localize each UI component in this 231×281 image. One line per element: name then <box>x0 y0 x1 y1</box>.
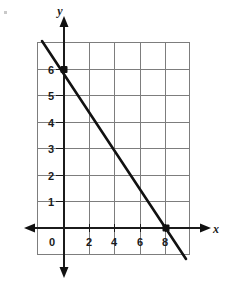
coordinate-plane: y x 6 5 4 3 2 1 0 2 4 6 8 <box>0 0 231 281</box>
y-axis-label: y <box>55 4 63 18</box>
point-y-intercept <box>61 66 68 73</box>
x-tick-label-4: 4 <box>111 236 118 248</box>
y-tick-label-6: 6 <box>48 64 54 76</box>
x-axis-arrow-left-icon <box>24 224 35 233</box>
y-axis-ticks <box>56 70 64 202</box>
y-tick-label-2: 2 <box>48 170 54 182</box>
x-tick-label-8: 8 <box>162 236 168 248</box>
x-tick-label-6: 6 <box>137 236 143 248</box>
y-tick-label-1: 1 <box>48 196 54 208</box>
origin-label: 0 <box>49 236 55 248</box>
scan-speck <box>4 11 7 14</box>
x-axis-label: x <box>212 222 219 236</box>
y-axis-arrow-down-icon <box>60 267 69 278</box>
y-tick-label-4: 4 <box>48 117 55 129</box>
y-tick-label-5: 5 <box>48 90 54 102</box>
graph-figure: y x 6 5 4 3 2 1 0 2 4 6 8 <box>0 0 231 281</box>
x-axis-arrow-right-icon <box>200 224 211 233</box>
x-tick-label-2: 2 <box>86 236 92 248</box>
point-x-intercept <box>163 225 170 232</box>
y-tick-label-3: 3 <box>48 143 54 155</box>
